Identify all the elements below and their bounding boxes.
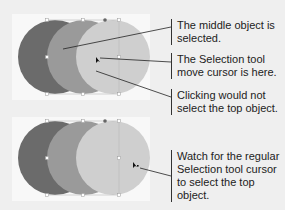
callout-move-cursor: The Selection tool move cursor is here. [171, 53, 285, 79]
callout-text: The middle object is selected. [177, 19, 275, 44]
anchor-point [103, 119, 107, 123]
callout-clicking-note: Clicking would not select the top object… [171, 89, 285, 115]
front-circle[interactable] [76, 121, 150, 195]
cursor-dot-icon [137, 165, 139, 167]
top-circles [18, 18, 150, 95]
callout-middle-selected: The middle object is selected. [171, 19, 285, 45]
anchor-point [103, 18, 107, 22]
callout-text: Watch for the regular Selection tool cur… [177, 150, 279, 201]
bottom-circles [18, 119, 150, 196]
callout-text: The Selection tool move cursor is here. [177, 53, 277, 78]
callout-regular-cursor: Watch for the regular Selection tool cur… [171, 150, 285, 202]
front-circle[interactable] [76, 20, 150, 94]
callout-text: Clicking would not select the top object… [177, 89, 278, 114]
